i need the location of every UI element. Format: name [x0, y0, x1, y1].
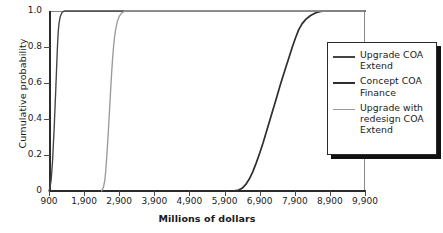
chart-figure: Cumulative probability 00.20.40.60.81.0 …: [0, 0, 443, 233]
legend-item: Upgrade COA Extend: [333, 49, 432, 72]
chart-legend: Upgrade COA ExtendConcept COA FinanceUpg…: [327, 42, 437, 155]
series-line: [102, 11, 365, 191]
legend-line-icon: [333, 78, 355, 89]
legend-label: Upgrade COA Extend: [360, 49, 432, 72]
x-axis-title: Millions of dollars: [49, 213, 365, 224]
legend-label: Concept COA Finance: [360, 75, 432, 98]
legend-line-icon: [333, 52, 355, 63]
legend-item: Upgrade with redesign COA Extend: [333, 102, 432, 136]
legend-label: Upgrade with redesign COA Extend: [360, 102, 432, 136]
legend-line-icon: [333, 105, 355, 116]
series-line: [49, 11, 365, 191]
legend-item: Concept COA Finance: [333, 75, 432, 98]
